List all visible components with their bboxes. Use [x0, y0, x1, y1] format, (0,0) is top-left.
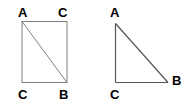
- figure-right-triangle: A B C: [96, 0, 192, 110]
- triangle-hypotenuse: [116, 24, 169, 83]
- geometry-figure-board: A C C B A B C: [0, 0, 192, 110]
- square-diagonal-drawing: [0, 0, 96, 110]
- square-diagonal-line: [22, 22, 67, 83]
- square-vertex-label-top-left: A: [18, 6, 27, 19]
- triangle-vertex-label-apex: A: [110, 6, 119, 19]
- figure-square-with-diagonal: A C C B: [0, 0, 96, 110]
- triangle-vertex-label-bottom-left: C: [110, 88, 119, 101]
- triangle-vertex-label-bottom-right: B: [172, 74, 181, 87]
- square-vertex-label-bottom-left: C: [18, 88, 27, 101]
- square-vertex-label-bottom-right: B: [59, 88, 68, 101]
- square-vertex-label-top-right: C: [58, 6, 67, 19]
